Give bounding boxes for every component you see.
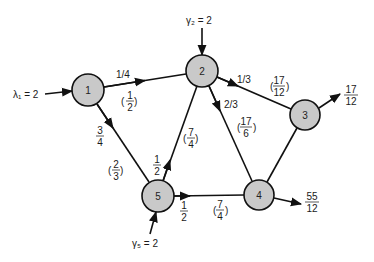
input-label-5: γ₅ = 2 [132,238,158,249]
node-5: 5 [142,180,174,212]
svg-text:2: 2 [127,102,133,113]
svg-text:): ) [286,81,289,92]
svg-text:2: 2 [199,66,205,77]
svg-text:5: 5 [155,191,161,202]
prob-5-to-2: 1 2 [153,154,161,177]
svg-text:55: 55 [306,191,318,202]
svg-text:): ) [253,122,256,133]
prob-1-to-2: 1/4 [116,69,130,80]
prob-1-to-5: 3 4 [96,125,104,148]
arrow-1-to-2 [104,81,145,88]
input-label-2: γ₂ = 2 [186,15,212,26]
output-3: 17 12 [344,84,358,107]
svg-text:7: 7 [217,199,223,210]
svg-text:2: 2 [113,159,119,170]
prob-5-to-4: 1 2 [180,200,188,223]
svg-text:12: 12 [273,87,285,98]
svg-text:4: 4 [217,211,223,222]
svg-text:1: 1 [127,90,133,101]
output-arrow-4 [274,198,301,204]
svg-text:12: 12 [345,96,357,107]
svg-text:1: 1 [181,200,187,211]
svg-text:): ) [225,205,228,216]
arrow-2-to-3 [217,77,238,86]
svg-text:3: 3 [113,171,119,182]
node-2: 2 [186,55,218,87]
arrow-2-to-4 [209,86,220,111]
arrow-5-to-2 [163,160,170,181]
node-1: 1 [72,74,104,106]
flow-5-to-2: ( 7 4 ) [183,127,198,150]
svg-text:4: 4 [256,190,262,201]
svg-text:1: 1 [154,154,160,165]
flow-2-to-4: ( 17 6 ) [237,116,256,139]
flow-5-to-4: ( 7 4 ) [213,199,228,222]
svg-text:2: 2 [181,212,187,223]
svg-text:12: 12 [306,203,318,214]
svg-text:): ) [195,133,198,144]
flow-2-to-3: ( 17 12 ) [270,75,289,98]
svg-text:4: 4 [188,139,194,150]
node-3: 3 [290,100,320,130]
prob-2-to-4: 2/3 [224,99,238,110]
input-arrow-1 [45,91,72,94]
svg-text:(: ( [183,133,187,144]
svg-text:17: 17 [240,116,252,127]
svg-text:(: ( [121,96,125,107]
svg-text:3: 3 [302,110,308,121]
flow-1-to-2: ( 1 2 ) [121,90,137,113]
svg-text:7: 7 [188,127,194,138]
svg-text:17: 17 [345,84,357,95]
svg-text:1: 1 [85,85,91,96]
queueing-network-diagram: 1 2 3 4 5 λ₁ = 2 γ₂ = 2 γ₅ = 2 1/4 ( 1 2… [0,0,374,262]
svg-text:6: 6 [243,128,249,139]
svg-text:4: 4 [97,137,103,148]
prob-2-to-3: 1/3 [237,74,251,85]
node-4: 4 [244,180,274,210]
output-4: 55 12 [305,191,319,214]
svg-text:(: ( [108,165,112,176]
svg-text:): ) [134,96,137,107]
input-arrow-5 [150,212,156,234]
svg-text:): ) [120,165,123,176]
flow-1-to-5: ( 2 3 ) [108,159,123,182]
edge-3-to-4 [267,128,297,182]
svg-text:17: 17 [273,75,285,86]
svg-text:2: 2 [154,166,160,177]
input-label-1: λ₁ = 2 [13,89,39,100]
output-arrow-3 [319,94,340,108]
svg-text:3: 3 [97,125,103,136]
